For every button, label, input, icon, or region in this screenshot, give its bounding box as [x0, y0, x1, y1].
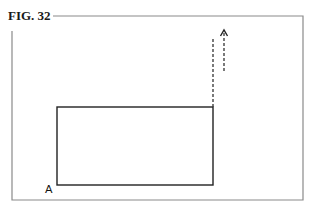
dashed-up-arrow	[221, 30, 228, 71]
point-a-label: A	[45, 184, 53, 196]
rectangle-shape	[57, 107, 213, 185]
outer-frame	[12, 16, 303, 200]
figure-diagram	[0, 0, 312, 208]
